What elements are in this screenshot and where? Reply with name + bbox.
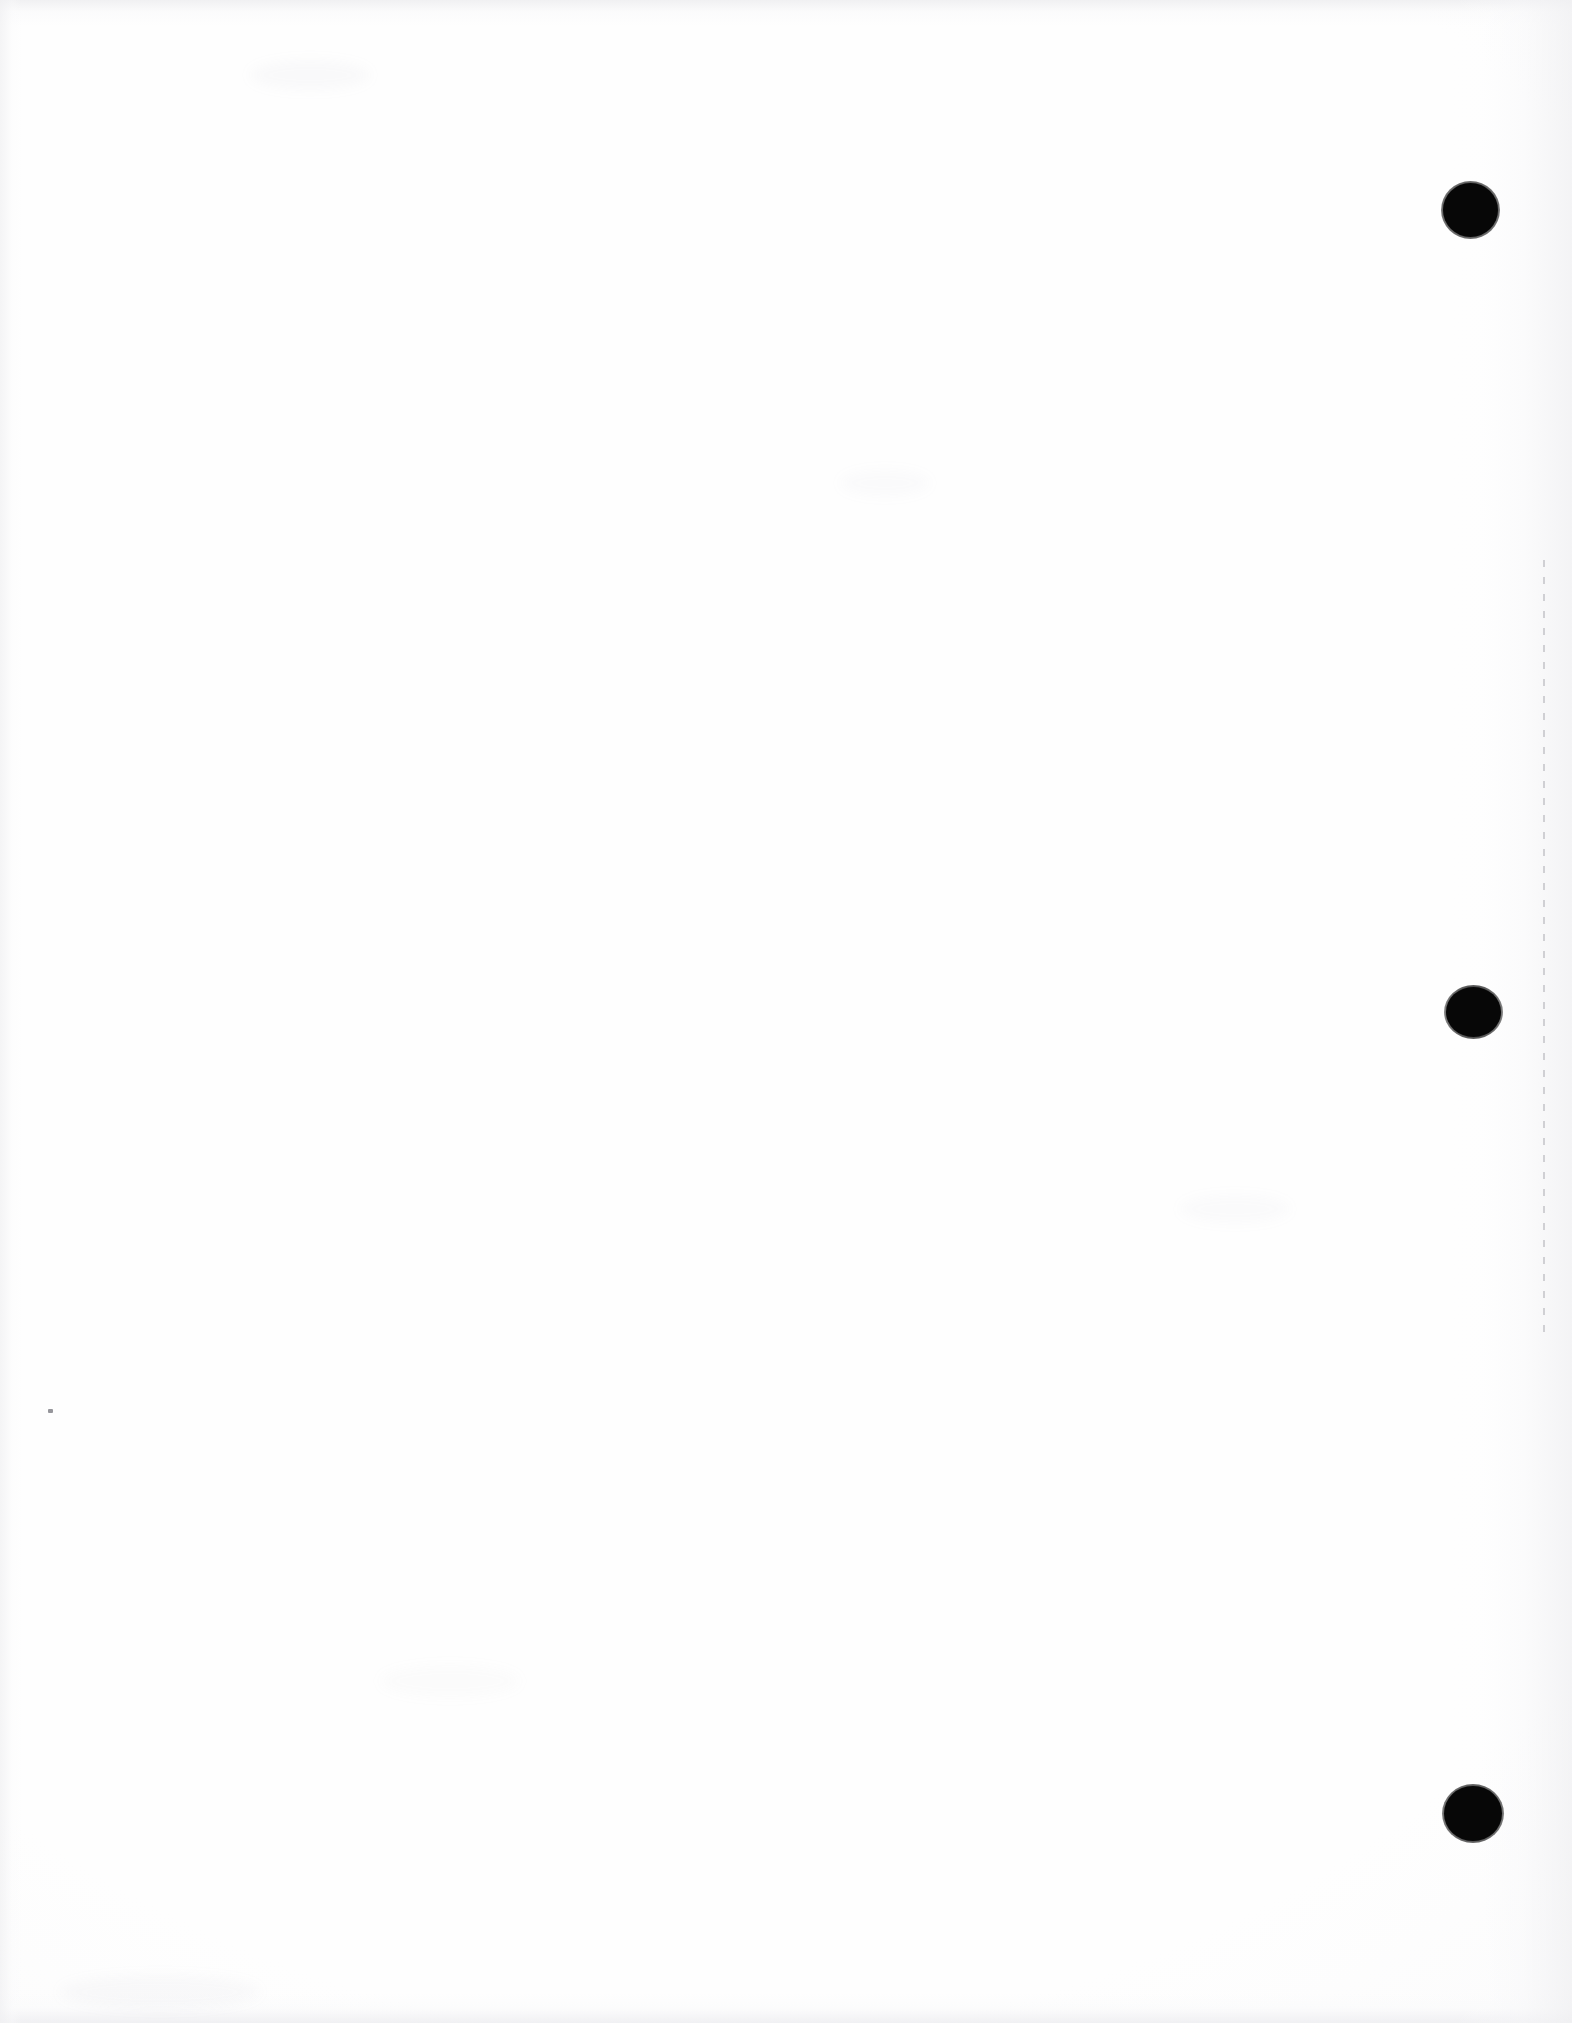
scan-smudge — [840, 470, 930, 496]
scanned-page — [0, 0, 1572, 2023]
hole-mark-top — [1443, 183, 1498, 237]
scan-smudge — [60, 1975, 260, 2009]
scan-vignette — [0, 0, 1572, 2023]
scan-smudge — [380, 1665, 520, 1697]
dust-speck — [48, 1409, 53, 1413]
scan-edge-noise-left — [0, 0, 22, 2023]
scan-edge-noise-top — [0, 0, 1572, 26]
scan-smudge — [250, 60, 370, 90]
hole-mark-bottom — [1444, 1786, 1502, 1841]
scan-smudge — [1180, 1195, 1290, 1223]
right-margin-dashed-rule — [1543, 560, 1545, 1340]
scan-edge-noise-bottom — [0, 1993, 1572, 2023]
hole-mark-middle — [1446, 987, 1501, 1037]
